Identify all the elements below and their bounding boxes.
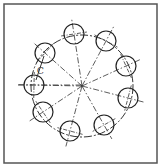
radial-centerline [82, 59, 141, 86]
radial-centerline [33, 42, 82, 86]
radial-centerline [82, 86, 112, 139]
diagram-frame: C [0, 0, 161, 166]
center-lines [18, 18, 143, 146]
holes [24, 24, 138, 141]
border [4, 4, 157, 163]
chord-label: C [37, 66, 44, 76]
radial-centerline [82, 86, 143, 102]
radial-centerline [72, 18, 82, 86]
hole-crossline [93, 119, 116, 132]
bolt-circle-drawing: C [0, 0, 161, 166]
